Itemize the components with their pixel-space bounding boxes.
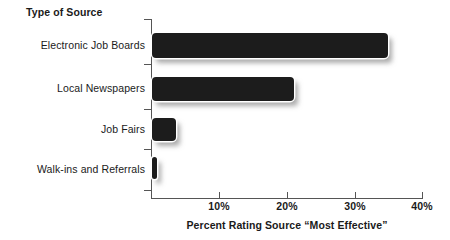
x-axis-label-10: 10% bbox=[199, 200, 239, 212]
y-axis-tick bbox=[144, 149, 151, 150]
y-axis-tick bbox=[144, 190, 151, 191]
y-axis-title: Type of Source bbox=[26, 6, 102, 18]
bar-walk-ins-and-referrals bbox=[152, 157, 157, 179]
x-axis-tick-10 bbox=[219, 192, 220, 199]
x-axis-tick-20 bbox=[287, 192, 288, 199]
x-axis-tick-30 bbox=[355, 192, 356, 199]
bar-local-newspapers bbox=[152, 77, 294, 101]
y-axis-tick bbox=[144, 64, 151, 65]
bar-job-fairs bbox=[152, 118, 176, 141]
x-axis-label-40: 40% bbox=[402, 200, 442, 212]
x-axis-label-20: 20% bbox=[267, 200, 307, 212]
y-axis-tick bbox=[144, 19, 151, 20]
bar-electronic-job-boards bbox=[152, 33, 388, 58]
x-axis-tick-40 bbox=[422, 192, 423, 199]
x-axis-title: Percent Rating Source “Most Effective” bbox=[151, 219, 423, 231]
category-label-electronic-job-boards: Electronic Job Boards bbox=[41, 39, 145, 51]
category-label-local-newspapers: Local Newspapers bbox=[57, 82, 145, 94]
y-axis-tick bbox=[144, 109, 151, 110]
x-axis-label-30: 30% bbox=[335, 200, 375, 212]
category-label-job-fairs: Job Fairs bbox=[101, 123, 145, 135]
bar-chart: Type of Source Electronic Job Boards Loc… bbox=[0, 0, 450, 240]
category-label-walk-ins-and-referrals: Walk-ins and Referrals bbox=[37, 163, 145, 175]
